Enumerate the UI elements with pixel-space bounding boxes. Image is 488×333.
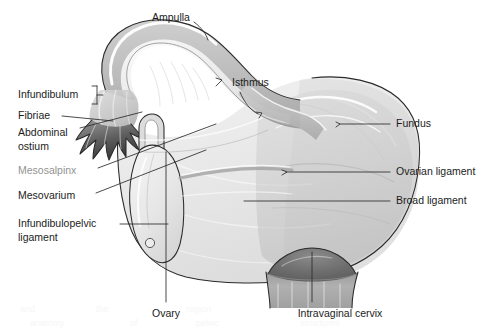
svg-text:the: the [96,304,109,314]
label-ovarian-ligament: Ovarian ligament [396,165,475,177]
label-intravaginal-cervix: Intravaginal cervix [298,307,383,319]
svg-text:pelvic: pelvic [196,318,220,328]
label-ovary: Ovary [152,307,181,319]
diagram-canvas: and the region anatomy of pelvic structu… [0,0,488,333]
svg-text:of: of [130,318,138,328]
svg-text:structures: structures [300,318,340,328]
svg-text:anatomy: anatomy [30,318,65,328]
label-fibriae: Fibriae [18,109,50,121]
label-infundibulopelvic-ligament-line2: ligament [18,231,58,243]
label-mesovarium: Mesovarium [18,189,75,201]
label-isthmus: Isthmus [232,76,269,88]
svg-text:and: and [20,304,35,314]
ovary-body [130,145,184,263]
label-abdominal-ostium-line2: ostium [18,140,49,152]
svg-text:region: region [186,304,211,314]
label-infundibulum: Infundibulum [18,88,78,100]
label-fundus: Fundus [396,117,431,129]
label-abdominal-ostium-line1: Abdominal [18,126,68,138]
label-ampulla: Ampulla [152,11,190,23]
label-infundibulopelvic-ligament-line1: Infundibulopelvic [18,217,96,229]
label-broad-ligament: Broad ligament [396,194,467,206]
label-mesosalpinx: Mesosalpinx [18,164,77,176]
anatomical-figure: and the region anatomy of pelvic structu… [0,0,488,333]
